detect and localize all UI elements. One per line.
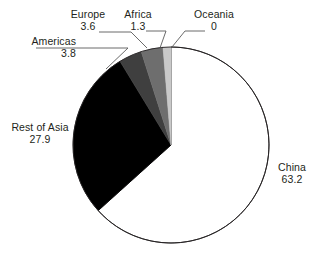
slice-label-oceania: Oceania 0 [186, 8, 242, 32]
slice-label-oceania-value: 0 [186, 20, 242, 32]
slice-label-africa-name: Africa [114, 8, 162, 20]
slice-label-africa: Africa 1.3 [114, 8, 162, 32]
slice-label-rest-of-asia-value: 27.9 [3, 133, 77, 145]
slice-label-china: China 63.2 [270, 161, 314, 185]
slice-label-americas-name: Americas [10, 35, 76, 47]
slice-label-americas: Americas 3.8 [10, 35, 76, 59]
slice-label-oceania-name: Oceania [186, 8, 242, 20]
slice-label-africa-value: 1.3 [114, 20, 162, 32]
slice-label-rest-of-asia: Rest of Asia 27.9 [3, 121, 77, 145]
leader-line-europe [99, 32, 147, 48]
slice-label-europe-name: Europe [58, 8, 118, 20]
slice-label-rest-of-asia-name: Rest of Asia [3, 121, 77, 133]
slice-label-americas-value: 3.8 [10, 47, 76, 59]
leader-line-africa [146, 31, 166, 48]
slice-label-europe: Europe 3.6 [58, 8, 118, 32]
slice-label-china-name: China [270, 161, 314, 173]
pie-chart: Americas 3.8 Europe 3.6 Africa 1.3 Ocean… [0, 0, 315, 262]
leader-line-oceania [172, 31, 205, 47]
slice-label-china-value: 63.2 [270, 173, 314, 185]
slice-label-europe-value: 3.6 [58, 20, 118, 32]
